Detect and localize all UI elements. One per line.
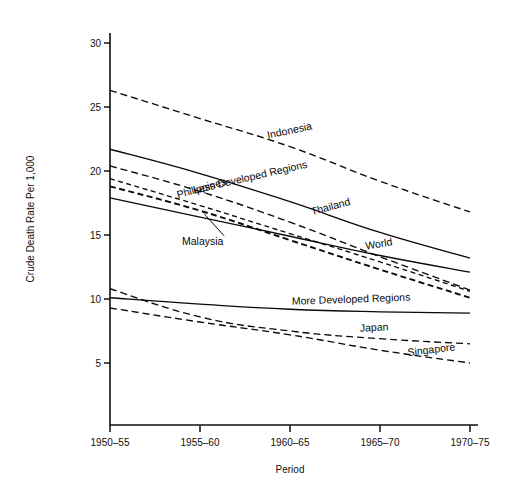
axis-titles: PeriodCrude Death Rate Per 1,000 (25, 155, 304, 475)
y-tick-label: 10 (90, 294, 102, 305)
x-tick-label: 1960–65 (271, 437, 310, 448)
crude-death-rate-line-chart: 510152025301950–551955–601960–651965–701… (0, 0, 510, 489)
series-line-world (110, 198, 470, 272)
series-line-more-developed-regions (110, 298, 470, 313)
axes: 510152025301950–551955–601960–651965–701… (90, 33, 490, 448)
y-tick-label: 5 (95, 358, 101, 369)
series-labels: IndonesiaLess Developed RegionsThailandP… (175, 119, 456, 358)
y-tick-label: 15 (90, 230, 102, 241)
series-label-singapore: Singapore (407, 340, 456, 358)
series-label-thailand: Thailand (309, 195, 351, 217)
series-label-indonesia: Indonesia (266, 119, 313, 140)
x-tick-label: 1955–60 (181, 437, 220, 448)
y-tick-label: 30 (90, 38, 102, 49)
series-line-philippines (110, 179, 470, 292)
series-line-indonesia (110, 90, 470, 212)
series-line-japan (110, 289, 470, 344)
series-label-malaysia: Malaysia (182, 235, 224, 247)
x-tick-label: 1970–75 (451, 437, 490, 448)
series-label-more-developed-regions: More Developed Regions (292, 291, 411, 307)
chart-page: 510152025301950–551955–601960–651965–701… (0, 0, 510, 489)
x-tick-label: 1965–70 (361, 437, 400, 448)
series-label-world: World (364, 235, 393, 251)
series-line-malaysia (110, 186, 470, 297)
y-axis-title: Crude Death Rate Per 1,000 (25, 155, 36, 282)
series-label-philippines: Philippines (175, 175, 227, 201)
y-tick-label: 20 (90, 166, 102, 177)
y-tick-label: 25 (90, 102, 102, 113)
series-line-thailand (110, 166, 470, 290)
series-label-japan: Japan (359, 320, 388, 333)
x-tick-label: 1950–55 (91, 437, 130, 448)
x-axis-title: Period (276, 464, 305, 475)
